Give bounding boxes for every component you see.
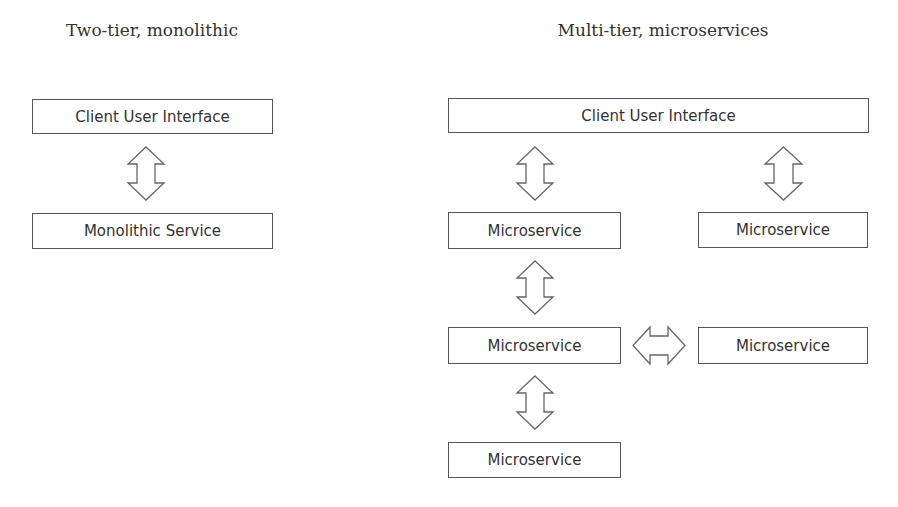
vertical-double-arrow-icon <box>765 147 802 200</box>
vertical-double-arrow-icon <box>517 376 553 429</box>
vertical-double-arrow-icon <box>517 147 553 200</box>
right-client-ui-box: Client User Interface <box>448 98 869 133</box>
horizontal-double-arrow-icon <box>633 327 685 364</box>
microservice-box-4: Microservice <box>698 327 868 364</box>
microservice-box-1: Microservice <box>448 212 621 249</box>
microservice-box-2: Microservice <box>698 212 868 248</box>
vertical-double-arrow-icon <box>517 261 553 314</box>
monolithic-service-box: Monolithic Service <box>32 213 273 249</box>
vertical-double-arrow-icon <box>128 147 164 200</box>
multi-tier-title: Multi-tier, microservices <box>558 20 769 40</box>
left-client-ui-box: Client User Interface <box>32 99 273 134</box>
microservice-box-3: Microservice <box>448 327 621 364</box>
microservice-box-5: Microservice <box>448 442 621 478</box>
two-tier-title: Two-tier, monolithic <box>66 20 238 40</box>
